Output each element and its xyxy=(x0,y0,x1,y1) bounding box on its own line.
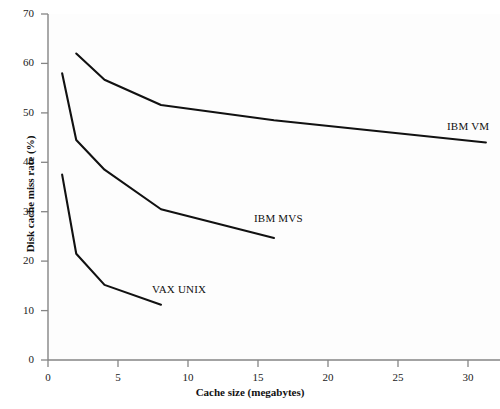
x-tick-marks xyxy=(48,360,468,367)
series-label-ibm-mvs: IBM MVS xyxy=(254,212,303,224)
y-axis-title: Disk cache miss rate (%) xyxy=(24,84,36,304)
x-axis-title: Cache size (megabytes) xyxy=(0,386,500,398)
x-tick-label-5: 5 xyxy=(105,371,131,383)
x-tick-label-25: 25 xyxy=(385,371,411,383)
x-tick-label-15: 15 xyxy=(245,371,271,383)
x-tick-label-0: 0 xyxy=(35,371,61,383)
y-tick-marks xyxy=(41,14,48,360)
y-tick-label-60: 60 xyxy=(8,56,34,68)
series-label-ibm-vm: IBM VM xyxy=(447,120,489,132)
chart-page: 70 60 50 40 30 20 10 0 0 5 10 15 20 25 3… xyxy=(0,0,500,409)
y-tick-label-70: 70 xyxy=(8,7,34,19)
series-line-ibm-vm xyxy=(76,54,486,143)
x-tick-label-10: 10 xyxy=(175,371,201,383)
series-label-vax-unix: VAX UNIX xyxy=(152,283,206,295)
series-line-vax-unix xyxy=(62,175,161,305)
x-tick-label-20: 20 xyxy=(315,371,341,383)
y-tick-label-0: 0 xyxy=(8,353,34,365)
series-line-ibm-mvs xyxy=(62,73,274,238)
x-tick-label-30: 30 xyxy=(455,371,481,383)
y-tick-label-10: 10 xyxy=(8,304,34,316)
chart-canvas xyxy=(0,0,500,409)
